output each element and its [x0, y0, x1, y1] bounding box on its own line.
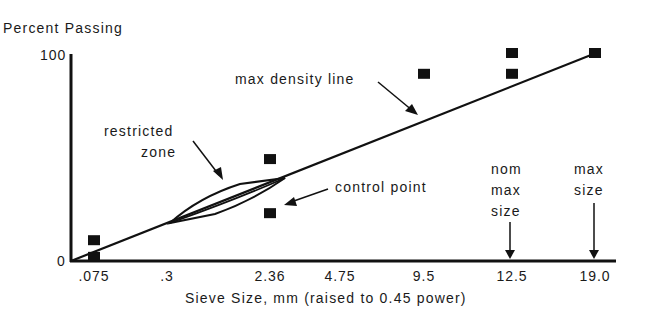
- nom-max-size-arrow: [505, 222, 515, 259]
- max-size-label: max: [574, 161, 604, 177]
- x-tick-label: 2.36: [254, 268, 285, 284]
- max-size-arrow: [589, 203, 599, 259]
- nom-max-size-label: max: [491, 182, 521, 198]
- y-axis-title: Percent Passing: [3, 20, 123, 36]
- x-tick-label: 19.0: [579, 268, 610, 284]
- control-point-marker: [506, 69, 518, 79]
- restricted-zone-arrow: [193, 141, 223, 180]
- x-tick-label: 4.75: [324, 268, 355, 284]
- control-point-marker: [264, 154, 276, 164]
- max-size-label: size: [574, 182, 604, 198]
- control-point-marker: [264, 208, 276, 218]
- gradation-chart: Percent Passing 100 0 .075.32.364.759.51…: [0, 0, 651, 317]
- restricted-zone-label: zone: [141, 144, 176, 160]
- nom-max-size-label: size: [491, 203, 521, 219]
- control-point-marker: [88, 252, 100, 262]
- control-point-marker: [88, 235, 100, 245]
- control-point-marker: [589, 48, 601, 58]
- control-point-marker: [506, 48, 518, 58]
- control-point-arrow: [284, 189, 328, 206]
- x-axis-title: Sieve Size, mm (raised to 0.45 power): [185, 290, 467, 306]
- y-tick-label: 0: [57, 253, 66, 269]
- control-point-label: control point: [335, 179, 427, 195]
- max-density-arrow: [378, 82, 418, 115]
- y-tick-label: 100: [40, 47, 66, 63]
- max-density-label: max density line: [235, 71, 355, 87]
- control-point-marker: [418, 69, 430, 79]
- nom-max-size-label: nom: [491, 161, 522, 177]
- x-tick-label: 9.5: [413, 268, 435, 284]
- restricted-zone-label: restricted: [104, 123, 174, 139]
- x-tick-label: .075: [78, 268, 109, 284]
- x-tick-label: 12.5: [496, 268, 527, 284]
- x-tick-label: .3: [160, 268, 174, 284]
